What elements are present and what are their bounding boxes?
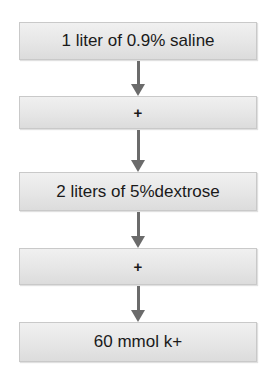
node-label: 1 liter of 0.9% saline bbox=[61, 31, 214, 51]
node-label: + bbox=[134, 258, 143, 275]
node-saline: 1 liter of 0.9% saline bbox=[19, 22, 257, 60]
arrow-down-icon bbox=[133, 212, 143, 248]
node-label: 60 mmol k+ bbox=[94, 332, 182, 352]
arrow-down-icon bbox=[133, 130, 143, 172]
arrow-down-icon bbox=[133, 61, 143, 96]
arrow-down-icon bbox=[133, 286, 143, 322]
node-plus-2: + bbox=[19, 248, 257, 285]
node-plus-1: + bbox=[19, 96, 257, 129]
node-potassium: 60 mmol k+ bbox=[19, 322, 257, 362]
node-label: 2 liters of 5%dextrose bbox=[56, 182, 219, 202]
node-dextrose: 2 liters of 5%dextrose bbox=[19, 172, 257, 211]
node-label: + bbox=[134, 104, 143, 121]
